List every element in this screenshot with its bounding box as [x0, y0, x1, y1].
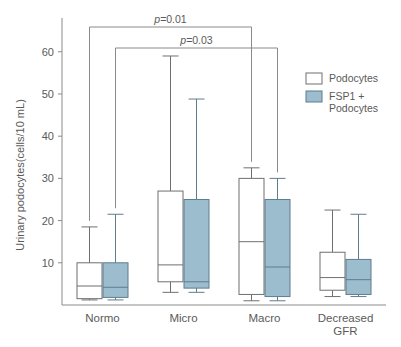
x-axis-category-label: Normo	[85, 312, 120, 324]
box-iqr-rect	[265, 199, 290, 296]
box-iqr-rect	[184, 199, 209, 288]
box-plot-chart: 102030405060 NormoMicroMacroDecreasedGFR…	[0, 0, 401, 347]
box-plot-box	[77, 227, 102, 300]
p-value-label: p=0.01	[153, 13, 187, 25]
y-tick-label: 10	[42, 257, 54, 269]
y-axis-ticks: 102030405060	[42, 46, 62, 269]
box-plot-box	[103, 214, 128, 300]
y-tick-label: 60	[42, 46, 54, 58]
box-iqr-rect	[320, 252, 345, 290]
box-plot-series-layer	[77, 56, 371, 301]
y-tick-label: 20	[42, 215, 54, 227]
legend-label-fsp1-line2: Podocytes	[329, 102, 378, 114]
x-axis-category-label: GFR	[333, 325, 357, 337]
x-axis-category-label: Micro	[169, 312, 197, 324]
legend-label-fsp1: FSP1 +	[329, 90, 364, 102]
y-tick-label: 40	[42, 130, 54, 142]
box-plot-box	[239, 168, 264, 301]
y-tick-label: 30	[42, 172, 54, 184]
box-iqr-rect	[346, 259, 371, 294]
box-plot-box	[158, 56, 183, 292]
legend-swatch-fsp1-podocytes	[306, 91, 322, 102]
y-axis-title: Urinary podocytes(cells/10 mL)	[14, 99, 26, 251]
plot-canvas: 102030405060 NormoMicroMacroDecreasedGFR…	[0, 0, 401, 347]
box-iqr-rect	[77, 263, 102, 299]
box-iqr-rect	[158, 191, 183, 282]
legend-label-podocytes: Podocytes	[329, 72, 378, 84]
box-plot-box	[346, 214, 371, 296]
box-plot-box	[265, 178, 290, 300]
x-axis-category-label: Macro	[249, 312, 281, 324]
box-plot-box	[320, 210, 345, 297]
box-iqr-rect	[103, 263, 128, 298]
legend: Podocytes FSP1 + Podocytes	[306, 72, 378, 114]
legend-swatch-podocytes	[306, 73, 322, 84]
x-axis-category-labels: NormoMicroMacroDecreasedGFR	[85, 312, 373, 337]
box-iqr-rect	[239, 178, 264, 294]
x-axis-category-label: Decreased	[318, 312, 374, 324]
y-tick-label: 50	[42, 88, 54, 100]
box-plot-box	[184, 99, 209, 292]
p-value-label: p=0.03	[179, 34, 213, 46]
